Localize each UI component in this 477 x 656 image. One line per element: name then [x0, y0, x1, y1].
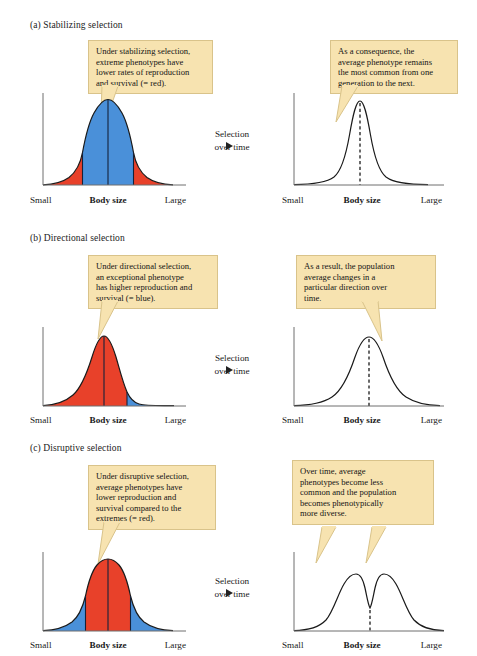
panel-stabilizing-selection: (a) Stabilizing selection Under stabiliz…: [0, 0, 477, 230]
callout-b-right: As a result, the population average chan…: [296, 255, 436, 309]
callout-line: Under directional selection,: [96, 261, 210, 272]
distribution-curve: [294, 337, 440, 406]
chart-c-after-axis-labels: Small Body size Large: [278, 640, 446, 650]
chart-b-before-svg: [28, 327, 188, 415]
axis-label-body-size: Body size: [344, 195, 381, 205]
axis-label-large: Large: [165, 195, 186, 205]
callout-line: Under disruptive selection,: [96, 471, 208, 482]
callout-line: common and the population: [300, 487, 426, 498]
chart-c-before-axis-labels: Small Body size Large: [28, 640, 188, 650]
chart-a-after-svg: [278, 93, 446, 195]
callout-line: Over time, average: [300, 466, 426, 477]
callout-line: As a result, the population: [304, 261, 428, 272]
callout-line: has higher reproduction and: [96, 282, 210, 293]
callout-line: survival (= blue).: [96, 293, 210, 304]
selection-arrow-label-top: Selection: [196, 575, 268, 588]
callout-line: As a consequence, the: [338, 46, 450, 57]
callout-line: an exceptional phenotype: [96, 272, 210, 283]
chart-c-before-svg: [28, 552, 188, 640]
selection-arrow-label-top: Selection: [196, 128, 268, 141]
distribution-curve-bimodal: [294, 574, 444, 631]
chart-c-before: Small Body size Large: [28, 552, 188, 640]
axis-label-large: Large: [165, 640, 186, 650]
selection-arrow-a: Selection over time: [196, 128, 268, 154]
callout-line: generation to the next.: [338, 78, 450, 89]
chart-c-after-svg: [278, 552, 446, 640]
axis-label-small: Small: [30, 195, 51, 205]
callout-a-right: As a consequence, the average phenotype …: [330, 40, 458, 94]
callout-line: average phenotypes have: [96, 482, 208, 493]
callout-line: the most common from one: [338, 67, 450, 78]
callout-line: and survival (= red).: [96, 78, 205, 89]
section-title-a: (a) Stabilizing selection: [30, 20, 123, 30]
callout-line: time.: [304, 293, 428, 304]
axis-label-body-size: Body size: [90, 195, 127, 205]
callout-b-left: Under directional selection, an exceptio…: [88, 255, 218, 309]
callout-a-left: Under stabilizing selection, extreme phe…: [88, 40, 213, 94]
axis-label-large: Large: [421, 195, 442, 205]
panel-disruptive-selection: (c) Disruptive selection Under disruptiv…: [0, 440, 477, 656]
chart-a-before: Small Body size Large: [28, 93, 188, 195]
axis-label-body-size: Body size: [344, 640, 381, 650]
chart-a-before-svg: [28, 93, 188, 195]
axis-label-body-size: Body size: [344, 415, 381, 425]
axis-label-large: Large: [421, 640, 442, 650]
section-title-c: (c) Disruptive selection: [30, 443, 122, 453]
selection-arrow-b: Selection over time: [196, 352, 268, 378]
distribution-fill-regions: [43, 336, 174, 406]
chart-a-after: Small Body size Large: [278, 93, 446, 195]
selection-arrow-c: Selection over time: [196, 575, 268, 601]
chart-b-after-axis-labels: Small Body size Large: [278, 415, 446, 425]
callout-c-left: Under disruptive selection, average phen…: [88, 465, 216, 530]
chart-b-before: Small Body size Large: [28, 327, 188, 415]
distribution-curve: [294, 101, 428, 185]
axis-label-small: Small: [30, 640, 51, 650]
callout-line: becomes phenotypically: [300, 498, 426, 509]
axis-label-small: Small: [282, 640, 303, 650]
arrow-head-icon: [226, 366, 233, 374]
axis-label-small: Small: [282, 415, 303, 425]
callout-line: extreme phenotypes have: [96, 57, 205, 68]
callout-line: phenotypes become less: [300, 477, 426, 488]
axis-label-small: Small: [30, 415, 51, 425]
chart-a-after-axis-labels: Small Body size Large: [278, 195, 446, 205]
panel-directional-selection: (b) Directional selection Under directio…: [0, 230, 477, 440]
callout-line: extremes (= red).: [96, 513, 208, 524]
callout-line: lower rates of reproduction: [96, 67, 205, 78]
callout-line: more diverse.: [300, 508, 426, 519]
chart-b-before-axis-labels: Small Body size Large: [28, 415, 188, 425]
callout-c-right: Over time, average phenotypes become les…: [292, 460, 434, 525]
chart-c-after: Small Body size Large: [278, 552, 446, 640]
callout-line: survival compared to the: [96, 503, 208, 514]
arrow-head-icon: [226, 589, 233, 597]
chart-a-before-axis-labels: Small Body size Large: [28, 195, 188, 205]
callout-line: lower reproduction and: [96, 492, 208, 503]
fill-red-region: [43, 336, 127, 406]
section-title-b: (b) Directional selection: [30, 233, 125, 243]
callout-line: average phenotype remains: [338, 57, 450, 68]
selection-arrow-label-top: Selection: [196, 352, 268, 365]
axis-label-small: Small: [282, 195, 303, 205]
arrow-head-icon: [226, 142, 233, 150]
axis-label-body-size: Body size: [90, 640, 127, 650]
chart-b-after-svg: [278, 327, 446, 415]
callout-line: average changes in a: [304, 272, 428, 283]
axis-label-large: Large: [165, 415, 186, 425]
axis-label-body-size: Body size: [90, 415, 127, 425]
axis-label-large: Large: [421, 415, 442, 425]
callout-line: particular direction over: [304, 282, 428, 293]
chart-b-after: Small Body size Large: [278, 327, 446, 415]
callout-line: Under stabilizing selection,: [96, 46, 205, 57]
fill-blue-region: [127, 392, 174, 406]
